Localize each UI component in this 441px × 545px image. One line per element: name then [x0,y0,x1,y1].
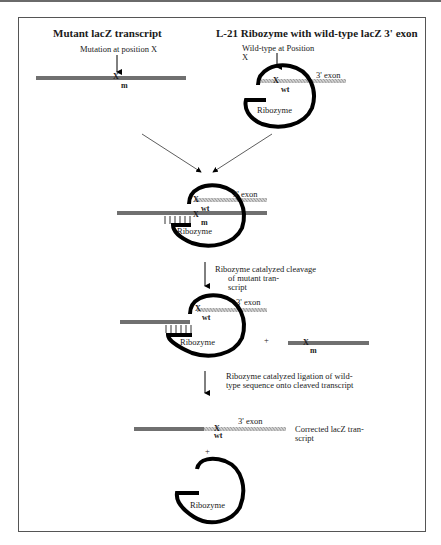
site-x-3: X [193,196,199,204]
mutant-fragment [288,341,369,345]
exon-label-2: 3' exon [233,190,257,199]
exon-label-4: 3' exon [238,417,262,426]
converge-arrow-left-icon [142,134,201,172]
left-title: Mutant lacZ transcript [53,28,162,40]
site-x-4: X [193,211,199,219]
wildtype-mark-2: wt [201,205,209,213]
ribozyme-label-3: Ribozyme [180,338,215,347]
mutation-label: Mutation at position X [80,45,157,54]
plus-1: + [264,336,269,345]
mutant-transcript [36,55,186,80]
exon-label-3: 3' exon [236,298,260,307]
ribozyme-with-exon [246,53,346,127]
wildtype-mark-3: wt [202,314,210,322]
exon-label-1: 3' exon [316,71,340,80]
site-x-6: X [303,339,309,347]
step1-line3: script [228,283,247,292]
right-title: L-21 Ribozyme with wild-type lacZ 3' exo… [216,28,418,40]
released-ribozyme [177,459,243,522]
ribozyme-label-4: Ribozyme [190,501,225,510]
plus-2: + [205,447,210,456]
converge-arrow-right-icon [213,134,272,172]
site-x-2: X [273,77,279,85]
result-line2: script [295,434,314,443]
mutant-mark-3: m [310,347,317,355]
wildtype-mark-4: wt [214,432,222,440]
mutant-mark-1: m [121,82,128,90]
ribozyme-label-2: Ribozyme [177,227,212,236]
site-x-1: X [113,73,119,81]
ribozyme-label-1: Ribozyme [257,106,292,115]
wildtype-label-line1: Wild-type at Position [242,44,314,53]
wildtype-mark-1: wt [281,86,289,94]
wildtype-label-line2: X [242,53,248,62]
mutant-strand [36,76,186,80]
ribozyme-shape [246,65,314,126]
site-x-5: X [195,305,201,313]
step2-line2: type sequence onto cleaved transcript [226,381,353,390]
